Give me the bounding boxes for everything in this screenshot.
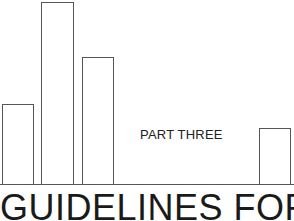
section-label: PART THREE — [140, 127, 223, 142]
decorative-bar-1 — [2, 104, 34, 185]
baseline-rule — [0, 184, 294, 185]
decorative-bar-3 — [82, 57, 114, 185]
decorative-bar-2 — [41, 2, 74, 185]
decorative-bar-4 — [259, 128, 291, 185]
page-title: GUIDELINES FOR — [0, 188, 294, 221]
